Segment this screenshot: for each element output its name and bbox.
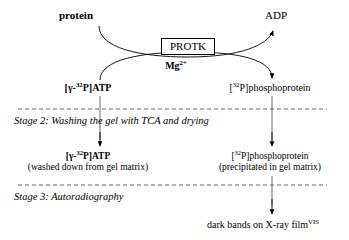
final-result-label: dark bands on X-ray filmVIS bbox=[207, 219, 319, 231]
cofactor-label-charge: 2+ bbox=[180, 59, 187, 66]
product-label: ADP bbox=[265, 9, 287, 22]
substrate-label: protein bbox=[59, 9, 93, 22]
stage-2-left-item-suffix: P]ATP bbox=[83, 151, 110, 161]
reaction-diagram: protein ADP PROTK Mg2+ [γ-32P]ATP [32P]p… bbox=[0, 0, 349, 240]
enzyme-box: PROTK bbox=[161, 38, 215, 55]
stage-2-right-item-note: (precipitated in gel matrix) bbox=[219, 162, 321, 173]
final-result-superscript: VIS bbox=[308, 218, 319, 225]
radiolabeled-phosphoprotein-label: [32P]phosphoprotein bbox=[229, 82, 310, 94]
stage-2-left-item-title: [γ-32P]ATP bbox=[28, 151, 148, 162]
stage-2-caption: Stage 2: Washing the gel with TCA and dr… bbox=[14, 115, 209, 127]
stage-2-left-item-prefix: [γ- bbox=[66, 151, 77, 161]
final-result-text: dark bands on X-ray film bbox=[207, 219, 308, 230]
stage-2-left-item: [γ-32P]ATP (washed down from gel matrix) bbox=[28, 151, 148, 173]
atp-label-prefix: [γ- bbox=[65, 82, 76, 93]
stage-2-right-item: [32P]phosphoprotein (precipitated in gel… bbox=[219, 151, 321, 173]
atp-label-suffix: P]ATP bbox=[83, 82, 112, 93]
stage-3-caption: Stage 3: Autoradiography bbox=[14, 191, 123, 203]
cofactor-label: Mg2+ bbox=[165, 60, 187, 72]
stage-2-right-item-suffix: P]phosphoprotein bbox=[241, 151, 309, 161]
phosphoprotein-label-suffix: P]phosphoprotein bbox=[240, 82, 311, 93]
enzyme-label: PROTK bbox=[170, 40, 206, 52]
cofactor-label-base: Mg bbox=[165, 60, 179, 71]
radiolabeled-atp-label: [γ-32P]ATP bbox=[65, 82, 112, 94]
stage-2-right-item-title: [32P]phosphoprotein bbox=[219, 151, 321, 162]
stage-2-left-item-note: (washed down from gel matrix) bbox=[28, 162, 148, 173]
